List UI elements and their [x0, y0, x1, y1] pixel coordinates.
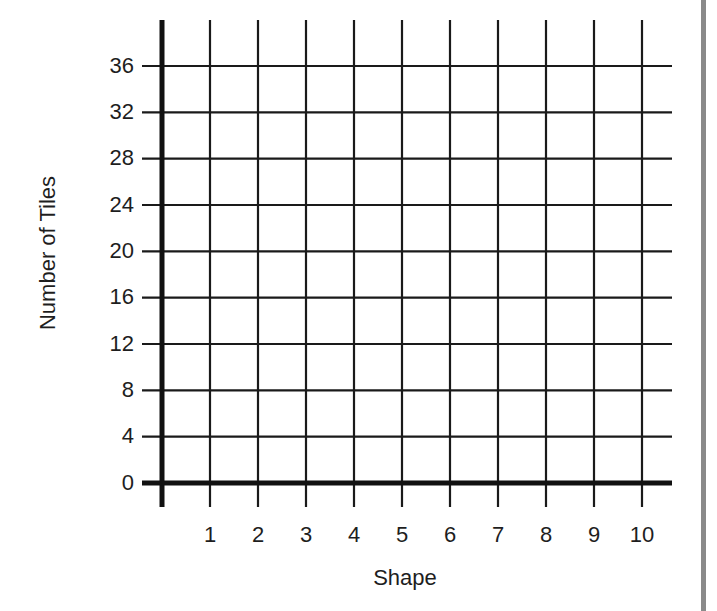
x-tick-label: 3 [300, 522, 312, 547]
x-tick-label: 2 [252, 522, 264, 547]
y-tick-label: 4 [122, 423, 134, 448]
x-tick-labels: 12345678910 [204, 522, 654, 547]
x-tick-label: 10 [630, 522, 654, 547]
y-tick-label: 32 [110, 99, 134, 124]
x-tick-label: 5 [396, 522, 408, 547]
horizontal-gridlines [142, 66, 672, 437]
chart-canvas: 04812162024283236 12345678910 Shape Numb… [0, 0, 717, 611]
y-tick-label: 24 [110, 192, 134, 217]
page-edge-bar [701, 0, 706, 611]
x-tick-label: 7 [492, 522, 504, 547]
x-tick-label: 8 [540, 522, 552, 547]
y-tick-label: 20 [110, 238, 134, 263]
y-tick-label: 28 [110, 145, 134, 170]
x-tick-label: 4 [348, 522, 360, 547]
y-tick-labels: 04812162024283236 [110, 53, 134, 495]
x-axis-title: Shape [373, 565, 437, 590]
x-tick-label: 9 [588, 522, 600, 547]
vertical-gridlines [210, 20, 642, 507]
y-tick-label: 36 [110, 53, 134, 78]
y-tick-label: 16 [110, 284, 134, 309]
y-tick-label: 8 [122, 377, 134, 402]
x-tick-label: 1 [204, 522, 216, 547]
x-tick-label: 6 [444, 522, 456, 547]
y-tick-label: 12 [110, 331, 134, 356]
y-tick-label: 0 [122, 470, 134, 495]
y-axis-title: Number of Tiles [35, 176, 60, 330]
